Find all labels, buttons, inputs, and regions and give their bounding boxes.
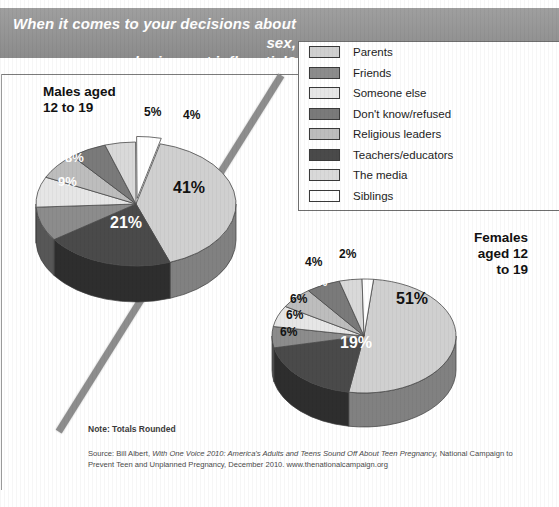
chart-males-value-5: 6%: [118, 125, 137, 140]
chart-females-value-3: 6%: [286, 308, 303, 322]
legend-panel: Parents Friends Someone else Don't know/…: [298, 41, 559, 211]
legend-swatch-someone-else: [309, 87, 340, 99]
source-citation: Source: Bill Albert, With One Voice 2010…: [88, 448, 518, 471]
page-title: When it comes to your decisions about se…: [0, 14, 296, 71]
legend-item-teachers[interactable]: Teachers/educators: [309, 145, 559, 166]
legend-item-friends[interactable]: Friends: [309, 63, 559, 84]
legend-swatch-teachers: [309, 149, 340, 161]
chart-females-value-2: 6%: [280, 325, 297, 339]
chart-females: Females aged 12 to 19 51% 19% 6% 6% 6% 6…: [248, 226, 548, 431]
source-title: With One Voice 2010: America's Adults an…: [152, 449, 437, 458]
legend-label-parents: Parents: [353, 46, 393, 58]
legend-label-siblings: Siblings: [353, 190, 393, 202]
legend-label-teachers: Teachers/educators: [353, 149, 453, 161]
legend-swatch-parents: [309, 46, 340, 58]
chart-males-value-2: 9%: [58, 174, 77, 189]
legend-swatch-religious-leaders: [309, 128, 340, 140]
legend-label-someone-else: Someone else: [353, 87, 427, 99]
legend-label-media: The media: [353, 169, 407, 181]
chart-females-value-5: 6%: [310, 275, 327, 289]
legend-swatch-media: [309, 169, 340, 181]
chart-males-value-4: 7%: [85, 133, 104, 148]
infographic-root: When it comes to your decisions about se…: [0, 0, 559, 507]
legend-item-media[interactable]: The media: [309, 165, 559, 186]
legend-label-friends: Friends: [353, 67, 391, 79]
legend-item-siblings[interactable]: Siblings: [309, 186, 559, 207]
legend-item-religious-leaders[interactable]: Religious leaders: [309, 124, 559, 145]
legend-swatch-dont-know: [309, 108, 340, 120]
chart-females-value-0: 51%: [396, 290, 428, 308]
totals-note: Note: Totals Rounded: [88, 424, 176, 434]
chart-females-value-1: 19%: [340, 334, 372, 352]
legend-item-someone-else[interactable]: Someone else: [309, 83, 559, 104]
legend-item-parents[interactable]: Parents: [309, 42, 559, 63]
chart-males-value-0: 41%: [173, 179, 205, 197]
chart-males-value-1: 21%: [110, 214, 142, 232]
legend-swatch-siblings: [309, 190, 340, 202]
chart-males-pie: [28, 112, 258, 322]
source-prefix: Source: Bill Albert,: [88, 449, 152, 458]
chart-males-value-6: 5%: [144, 105, 161, 119]
legend-item-dont-know[interactable]: Don't know/refused: [309, 104, 559, 125]
legend-label-religious-leaders: Religious leaders: [353, 128, 441, 140]
chart-females-value-4: 6%: [290, 292, 307, 306]
chart-females-value-7: 2%: [339, 247, 356, 261]
chart-females-value-6: 4%: [305, 255, 322, 269]
chart-males-value-3: 8%: [65, 150, 84, 165]
legend-swatch-friends: [309, 67, 340, 79]
legend-label-dont-know: Don't know/refused: [353, 108, 451, 120]
chart-males-value-7: 4%: [183, 108, 200, 122]
